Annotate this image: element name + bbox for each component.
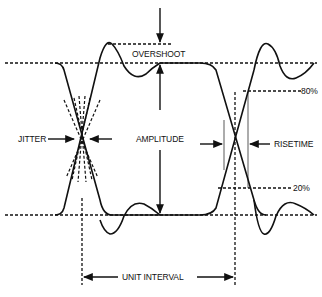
risetime-label: RISETIME: [274, 139, 314, 149]
amplitude-label: AMPLITUDE: [136, 134, 184, 144]
jitter-label: JITTER: [18, 134, 46, 144]
overshoot-label: OVERSHOOT: [132, 49, 185, 59]
unit-interval-label: UNIT INTERVAL: [122, 272, 184, 282]
eye-diagram: OVERSHOOT JITTER AMPLITUDE RISETIME 80% …: [0, 0, 322, 297]
reference-lines: [5, 44, 317, 285]
level-20-label: 20%: [293, 183, 310, 193]
level-80-label: 80%: [301, 86, 318, 96]
